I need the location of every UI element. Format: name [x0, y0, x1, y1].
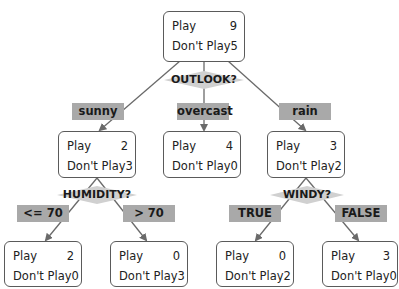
edge-label-overcast: overcast	[177, 103, 229, 120]
play-count: 2	[121, 136, 128, 156]
play-label: Play	[172, 136, 196, 156]
root-node: Play9 Don't Play5	[163, 11, 245, 62]
play-label: Play	[119, 246, 143, 266]
split-outlook: OUTLOOK?	[164, 71, 244, 89]
dont-play-count: 2	[284, 266, 291, 286]
play-label: Play	[172, 16, 196, 36]
play-count: 2	[67, 246, 74, 266]
dont-play-label: Don't Play	[172, 156, 231, 176]
leaf-humidity-gt-70: Play0 Don't Play3	[110, 241, 188, 287]
play-label: Play	[225, 246, 249, 266]
split-windy: WINDY?	[270, 186, 344, 204]
play-count: 9	[230, 16, 237, 36]
node-overcast: Play4 Don't Play0	[163, 131, 241, 178]
dont-play-label: Don't Play	[331, 266, 390, 286]
dont-play-count: 3	[178, 266, 185, 286]
play-label: Play	[13, 246, 37, 266]
play-count: 0	[173, 246, 180, 266]
dont-play-label: Don't Play	[225, 266, 284, 286]
edge-label-humidity-le-70: <= 70	[17, 205, 69, 222]
node-rain: Play3 Don't Play2	[267, 131, 345, 178]
edge-label-windy-true: TRUE	[229, 205, 281, 222]
leaf-windy-true: Play0 Don't Play2	[216, 241, 294, 287]
edge-label-humidity-gt-70: > 70	[123, 205, 175, 222]
play-count: 3	[383, 246, 390, 266]
edge-label-rain: rain	[279, 103, 331, 120]
edge-label-sunny: sunny	[72, 103, 124, 120]
play-label: Play	[67, 136, 91, 156]
dont-play-label: Don't Play	[119, 266, 178, 286]
play-count: 4	[226, 136, 233, 156]
dont-play-count: 2	[335, 156, 342, 176]
dont-play-count: 5	[231, 36, 238, 56]
node-sunny: Play2 Don't Play3	[58, 131, 136, 178]
dont-play-count: 3	[126, 156, 133, 176]
play-label: Play	[276, 136, 300, 156]
split-humidity: HUMIDITY?	[57, 186, 137, 204]
dont-play-label: Don't Play	[172, 36, 231, 56]
dont-play-label: Don't Play	[13, 266, 72, 286]
play-count: 3	[330, 136, 337, 156]
dont-play-count: 0	[72, 266, 79, 286]
dont-play-label: Don't Play	[276, 156, 335, 176]
play-count: 0	[279, 246, 286, 266]
leaf-humidity-le-70: Play2 Don't Play0	[4, 241, 82, 287]
dont-play-count: 0	[231, 156, 238, 176]
dont-play-label: Don't Play	[67, 156, 126, 176]
leaf-windy-false: Play3 Don't Play0	[322, 241, 398, 287]
dont-play-count: 0	[390, 266, 397, 286]
edge-label-windy-false: FALSE	[335, 205, 387, 222]
play-label: Play	[331, 246, 355, 266]
